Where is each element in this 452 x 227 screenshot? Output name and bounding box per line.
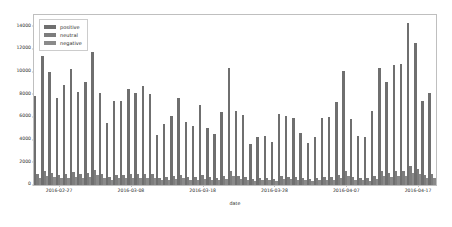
y-tick-label: 10000 <box>16 69 31 74</box>
bar-positive <box>428 93 430 185</box>
legend-item-neutral: neutral <box>44 31 82 39</box>
bar-group <box>99 15 106 185</box>
x-axis-label: date <box>33 201 437 206</box>
y-tick-label: 12000 <box>16 47 31 52</box>
bar-positive <box>34 96 36 185</box>
bar-group <box>264 15 271 185</box>
bar-group <box>185 15 192 185</box>
bar-group <box>299 15 306 185</box>
bar-positive <box>385 82 387 185</box>
bar-positive <box>328 117 330 185</box>
bar-positive <box>70 69 72 185</box>
bar-group <box>314 15 321 185</box>
bar-positive <box>407 23 409 185</box>
bar-positive <box>127 89 129 185</box>
bar-positive <box>163 124 165 185</box>
y-tick-label: 0 <box>28 183 31 188</box>
bar-group <box>407 15 414 185</box>
bar-positive <box>106 123 108 185</box>
x-tick-label: 2016-03-18 <box>189 189 216 194</box>
bar-group <box>149 15 156 185</box>
bar-group <box>91 15 98 185</box>
bar-group <box>134 15 141 185</box>
bar-group <box>271 15 278 185</box>
x-tick-label: 2016-04-17 <box>405 189 432 194</box>
bar-positive <box>113 101 115 185</box>
bar-group <box>321 15 328 185</box>
y-tick-mark <box>32 49 34 50</box>
bar-positive <box>84 82 86 185</box>
bar-group <box>328 15 335 185</box>
bar-group <box>228 15 235 185</box>
bar-positive <box>350 119 352 185</box>
x-tick-mark <box>274 185 275 187</box>
legend-swatch-negative <box>44 41 56 45</box>
y-tick-mark <box>32 139 34 140</box>
x-tick-mark <box>346 185 347 187</box>
legend-label-positive: positive <box>60 25 80 30</box>
bar-negative <box>433 178 435 185</box>
bar-group <box>249 15 256 185</box>
bar-group <box>213 15 220 185</box>
bar-group <box>113 15 120 185</box>
bar-group <box>206 15 213 185</box>
y-tick-label: 14000 <box>16 24 31 29</box>
bar-positive <box>400 64 402 185</box>
bar-positive <box>228 68 230 185</box>
bar-group <box>163 15 170 185</box>
bar-group <box>192 15 199 185</box>
legend-swatch-positive <box>44 25 56 29</box>
bar-group <box>428 15 435 185</box>
x-tick-label: 2016-02-27 <box>46 189 73 194</box>
bar-positive <box>335 102 337 185</box>
bar-positive <box>393 65 395 185</box>
bar-group <box>170 15 177 185</box>
bar-group <box>278 15 285 185</box>
bar-positive <box>242 115 244 185</box>
bar-group <box>414 15 421 185</box>
bar-group <box>421 15 428 185</box>
chart-axes: 02000400060008000100001200014000 2016-02… <box>33 14 437 186</box>
bar-positive <box>371 111 373 185</box>
chart-legend: positive neutral negative <box>39 19 88 51</box>
bar-positive <box>99 93 101 185</box>
bar-group <box>400 15 407 185</box>
x-tick-mark <box>203 185 204 187</box>
y-tick-label: 8000 <box>19 92 31 97</box>
bar-group <box>335 15 342 185</box>
y-tick-mark <box>32 162 34 163</box>
bar-positive <box>63 85 65 185</box>
bar-positive <box>77 92 79 186</box>
y-tick-mark <box>32 26 34 27</box>
bar-positive <box>142 86 144 185</box>
bar-group <box>256 15 263 185</box>
bar-group <box>385 15 392 185</box>
bar-positive <box>421 101 423 185</box>
bar-positive <box>48 72 50 185</box>
x-tick-label: 2016-03-28 <box>261 189 288 194</box>
bar-positive <box>134 93 136 185</box>
bar-positive <box>378 68 380 185</box>
bar-positive <box>177 98 179 185</box>
legend-item-positive: positive <box>44 23 82 31</box>
legend-item-negative: negative <box>44 39 82 47</box>
bar-positive <box>278 114 280 185</box>
bar-positive <box>321 118 323 185</box>
y-tick-mark <box>32 71 34 72</box>
x-tick-mark <box>131 185 132 187</box>
y-tick-mark <box>32 94 34 95</box>
bar-positive <box>170 116 172 185</box>
bar-group <box>378 15 385 185</box>
legend-label-negative: negative <box>60 41 82 46</box>
bar-group <box>364 15 371 185</box>
matplotlib-figure: 02000400060008000100001200014000 2016-02… <box>0 0 452 227</box>
bar-positive <box>292 118 294 185</box>
y-tick-label: 6000 <box>19 115 31 120</box>
bar-positive <box>220 112 222 185</box>
bar-group <box>235 15 242 185</box>
x-tick-mark <box>418 185 419 187</box>
bar-group <box>393 15 400 185</box>
bar-group <box>177 15 184 185</box>
bar-positive <box>56 98 58 185</box>
bar-group <box>342 15 349 185</box>
